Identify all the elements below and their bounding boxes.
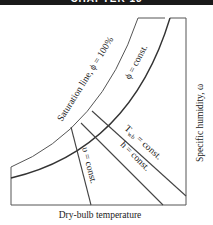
x-axis-label: Dry-bulb temperature [59, 210, 142, 220]
saturation-label: Saturation line, ϕ = 100% [55, 35, 115, 123]
v-const-label: υ = const. [80, 146, 99, 185]
psychrometric-diagram: Saturation line, ϕ = 100% ϕ = const. Twb… [0, 0, 213, 225]
phi-const-label: ϕ = const. [123, 43, 149, 81]
y-axis-label: Specific humidity, ω [195, 84, 205, 162]
